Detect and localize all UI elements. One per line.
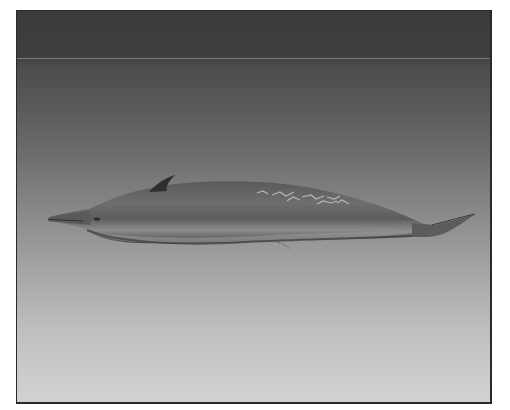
whale-illustration xyxy=(17,11,490,402)
pectoral-fin xyxy=(275,241,293,251)
whale-eye xyxy=(94,217,100,220)
image-frame: Side view of a gray beaked whale swimmin… xyxy=(16,10,492,404)
tail-fluke xyxy=(412,214,475,237)
